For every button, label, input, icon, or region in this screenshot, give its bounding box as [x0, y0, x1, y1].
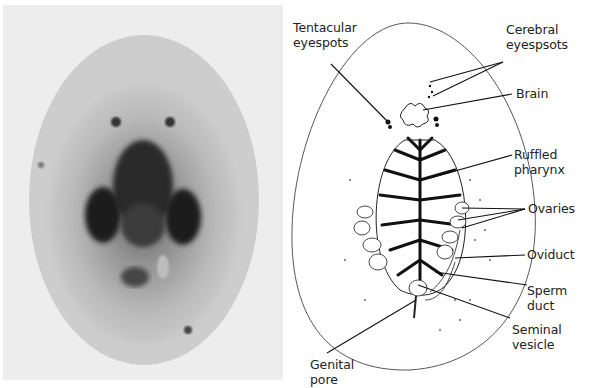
leader-lines: [327, 62, 527, 353]
label-seminal-vesicle: Seminal vesicle: [512, 322, 562, 352]
label-genital-pore: Genital pore: [310, 357, 354, 387]
label-ruffled-pharynx: Ruffled pharynx: [514, 147, 565, 177]
label-oviduct: Oviduct: [527, 247, 575, 262]
label-brain: Brain: [516, 86, 548, 101]
label-ovaries: Ovaries: [528, 201, 575, 216]
genital-pore-shape: [414, 296, 416, 318]
label-sperm-duct: Sperm duct: [527, 283, 567, 313]
pharynx-shape: [380, 138, 460, 290]
brain-shape: [400, 103, 428, 127]
label-tentacular-eyespots: Tentacular eyespots: [293, 20, 357, 50]
flatworm-diagram: [0, 0, 595, 388]
body-outline: [292, 23, 535, 370]
eyespots: [386, 85, 440, 129]
stippling: [344, 179, 491, 331]
label-cerebral-eyespots: Cerebral eyespsots: [506, 22, 568, 52]
seminal-vesicle-shape: [409, 280, 427, 296]
